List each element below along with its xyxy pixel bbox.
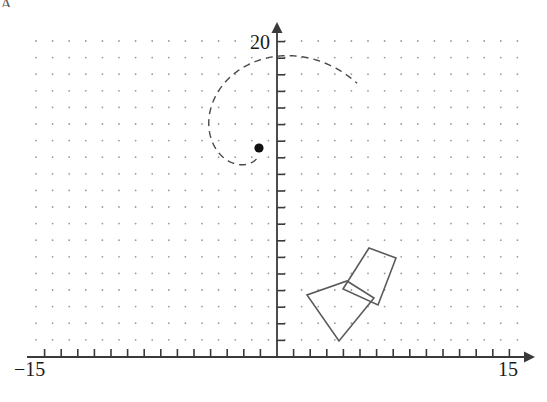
- grid-dot: [384, 223, 386, 225]
- grid-dot: [500, 289, 502, 291]
- grid-dot: [218, 73, 220, 75]
- grid-dot: [234, 40, 236, 42]
- grid-dot: [251, 73, 253, 75]
- grid-dot: [118, 57, 120, 59]
- grid-dot: [52, 273, 54, 275]
- grid-dot: [400, 256, 402, 258]
- grid-dot: [118, 223, 120, 225]
- grid-dot: [168, 57, 170, 59]
- grid-dot: [85, 256, 87, 258]
- grid-dot: [268, 156, 270, 158]
- grid-dot: [483, 206, 485, 208]
- grid-dot: [135, 57, 137, 59]
- grid-dot: [301, 40, 303, 42]
- grid-dot: [268, 173, 270, 175]
- grid-dot: [68, 73, 70, 75]
- grid-dot: [483, 339, 485, 341]
- grid-dot: [151, 306, 153, 308]
- grid-dot: [384, 173, 386, 175]
- grid-dot: [483, 256, 485, 258]
- grid-dot: [367, 190, 369, 192]
- grid-dot: [268, 107, 270, 109]
- grid-dot: [467, 73, 469, 75]
- grid-dot: [251, 223, 253, 225]
- grid-dot: [251, 156, 253, 158]
- grid-dot: [500, 273, 502, 275]
- grid-dot: [118, 273, 120, 275]
- grid-dot: [317, 339, 319, 341]
- grid-dot: [234, 289, 236, 291]
- grid-dot: [450, 322, 452, 324]
- grid-dot: [85, 190, 87, 192]
- grid-dot: [367, 123, 369, 125]
- grid-dot: [135, 289, 137, 291]
- grid-dot: [417, 322, 419, 324]
- grid-dot: [52, 239, 54, 241]
- grid-dot: [417, 339, 419, 341]
- grid-dot: [500, 322, 502, 324]
- grid-dot: [102, 73, 104, 75]
- grid-dot: [483, 40, 485, 42]
- grid-dot: [500, 223, 502, 225]
- grid-dot: [434, 57, 436, 59]
- grid-dot: [301, 140, 303, 142]
- grid-dot: [201, 107, 203, 109]
- grid-dot: [168, 173, 170, 175]
- x-axis-arrowhead: [524, 352, 535, 363]
- grid-dot: [201, 140, 203, 142]
- grid-dot: [102, 173, 104, 175]
- grid-dot: [500, 40, 502, 42]
- grid-dot: [334, 140, 336, 142]
- grid-dot: [467, 123, 469, 125]
- grid-dot: [367, 90, 369, 92]
- grid-dot: [367, 256, 369, 258]
- grid-dot: [118, 90, 120, 92]
- grid-dot: [301, 289, 303, 291]
- grid-dot: [450, 90, 452, 92]
- grid-dot: [85, 73, 87, 75]
- center-of-rotation-dot: [254, 143, 263, 152]
- grid-dot: [334, 190, 336, 192]
- grid-dot: [135, 73, 137, 75]
- grid-dot: [218, 273, 220, 275]
- grid-dot: [251, 306, 253, 308]
- grid-dot: [317, 123, 319, 125]
- grid-dot: [85, 322, 87, 324]
- grid-dot: [467, 57, 469, 59]
- grid-dot: [434, 173, 436, 175]
- grid-dot: [417, 140, 419, 142]
- y-axis-arrowhead: [272, 22, 283, 33]
- grid-dot: [367, 206, 369, 208]
- grid-dot: [102, 206, 104, 208]
- grid-dot: [450, 73, 452, 75]
- grid-dot: [450, 140, 452, 142]
- grid-dot: [467, 206, 469, 208]
- grid-dot: [185, 239, 187, 241]
- grid-dot: [517, 339, 519, 341]
- grid-dot: [367, 73, 369, 75]
- grid-dot: [168, 322, 170, 324]
- grid-dot: [400, 140, 402, 142]
- grid-dot: [384, 239, 386, 241]
- grid-dot: [301, 123, 303, 125]
- grid-dot: [135, 239, 137, 241]
- grid-dot: [467, 289, 469, 291]
- grid-dot: [434, 90, 436, 92]
- grid-dot: [400, 156, 402, 158]
- grid-dot: [85, 273, 87, 275]
- grid-dot: [218, 322, 220, 324]
- grid-dot: [52, 289, 54, 291]
- grid-dot: [35, 339, 37, 341]
- grid-dot: [434, 73, 436, 75]
- grid-dot: [301, 73, 303, 75]
- grid-dot: [118, 73, 120, 75]
- grid-dot: [317, 107, 319, 109]
- grid-dot: [35, 156, 37, 158]
- quadrilaterals-group: [307, 248, 396, 341]
- grid-dot: [251, 239, 253, 241]
- grid-dot: [351, 156, 353, 158]
- grid-dot: [68, 206, 70, 208]
- grid-dot: [417, 223, 419, 225]
- grid-dot: [185, 73, 187, 75]
- grid-dot: [85, 223, 87, 225]
